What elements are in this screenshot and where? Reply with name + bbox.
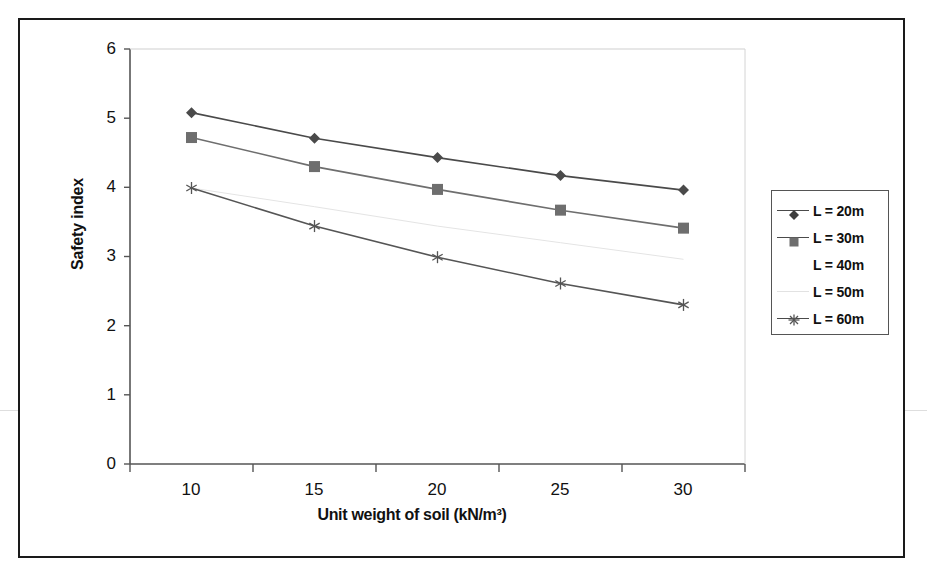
data-point-5-2	[309, 220, 319, 232]
chart-plot-container: 6 5 4 3 2 1 0 10 15 20 25 30 Safety inde…	[20, 20, 907, 560]
series-line-4	[192, 188, 684, 259]
series-line-2	[192, 138, 684, 229]
legend-item-1[interactable]: L = 30m	[772, 224, 888, 251]
legend-item-2[interactable]: L = 40m	[772, 251, 888, 278]
data-point-2-2	[309, 161, 320, 172]
y-tick-label-3: 3	[82, 246, 116, 266]
legend-swatch-diamond-icon	[776, 203, 810, 219]
series-line-5	[192, 188, 684, 305]
x-tick-label-10: 10	[166, 480, 216, 500]
legend-swatch-none-icon	[776, 257, 810, 273]
legend-swatch-asterisk-icon	[776, 311, 810, 327]
x-axis-title: Unit weight of soil (kN/m³)	[112, 506, 712, 524]
data-point-2-1	[186, 132, 197, 143]
series-1	[186, 107, 689, 195]
y-tick-label-6: 6	[82, 39, 116, 59]
data-series-layer	[186, 107, 689, 311]
x-axis-ticks	[130, 464, 745, 472]
data-point-2-4	[555, 205, 566, 216]
y-tick-label-1: 1	[82, 385, 116, 405]
x-tick-label-20: 20	[412, 480, 462, 500]
x-tick-label-15: 15	[289, 480, 339, 500]
x-tick-label-25: 25	[535, 480, 585, 500]
data-point-1-2	[309, 133, 320, 144]
y-tick-label-5: 5	[82, 108, 116, 128]
x-tick-label-30: 30	[658, 480, 708, 500]
series-5	[186, 182, 688, 311]
legend-label-4: L = 60m	[810, 311, 864, 327]
figure-outer-frame: 6 5 4 3 2 1 0 10 15 20 25 30 Safety inde…	[18, 18, 905, 558]
data-point-1-5	[678, 185, 689, 196]
y-axis-ticks	[124, 49, 130, 464]
data-point-2-3	[432, 184, 443, 195]
y-tick-label-0: 0	[82, 454, 116, 474]
chart-legend: L = 20m L = 30m L = 40m	[771, 190, 889, 335]
y-tick-label-2: 2	[82, 316, 116, 336]
data-point-1-3	[432, 152, 443, 163]
legend-item-0[interactable]: L = 20m	[772, 197, 888, 224]
legend-label-1: L = 30m	[810, 230, 864, 246]
legend-label-2: L = 40m	[810, 257, 864, 273]
data-point-2-5	[678, 223, 689, 234]
legend-label-0: L = 20m	[810, 203, 864, 219]
data-point-1-4	[555, 170, 566, 181]
legend-swatch-square-icon	[776, 230, 810, 246]
y-axis-title: Safety index	[69, 144, 87, 304]
series-4	[192, 188, 684, 259]
data-point-1-1	[186, 107, 197, 118]
legend-swatch-faint-icon	[776, 284, 810, 300]
series-2	[186, 132, 689, 234]
legend-item-3[interactable]: L = 50m	[772, 278, 888, 305]
legend-label-3: L = 50m	[810, 284, 864, 300]
y-tick-label-4: 4	[82, 177, 116, 197]
series-line-1	[192, 113, 684, 191]
legend-item-4[interactable]: L = 60m	[772, 305, 888, 332]
